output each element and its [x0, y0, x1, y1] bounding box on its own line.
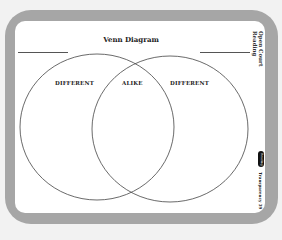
publisher-logo: Open Court Reading: [250, 31, 264, 86]
reading-badge: Reading: [258, 151, 264, 167]
worksheet: Venn Diagram DIFFERENT ALIKE DIFFERENT O…: [15, 21, 265, 213]
label-right-different: DIFFERENT: [170, 80, 209, 86]
label-alike: ALIKE: [122, 80, 143, 86]
transparency-number: Transparency 39: [258, 172, 263, 209]
venn-circles: [15, 21, 265, 213]
label-left-different: DIFFERENT: [55, 80, 94, 86]
